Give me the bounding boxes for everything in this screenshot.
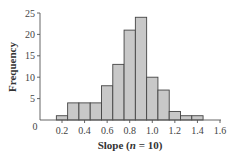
histogram-bars [56,17,203,120]
histogram-bar [147,77,158,120]
histogram-bar [158,90,169,120]
histogram-bar [79,103,90,120]
x-axis-title: Slope (n = 10) [98,139,163,152]
histogram-bar [68,103,79,120]
x-tick-label: 1.4 [191,125,204,136]
y-tick-label: 5 [30,93,35,104]
x-tick-label: 1.2 [169,125,182,136]
x-tick-label: 0.6 [101,125,114,136]
x-tick-label: 1.0 [146,125,159,136]
y-axis-title: Frequency [6,42,18,92]
y-tick-label: 15 [25,50,35,61]
histogram-bar [113,64,124,120]
histogram-bar [169,111,180,120]
x-tick-label: 0.8 [123,125,136,136]
histogram-bar [102,86,113,120]
histogram-bar [56,116,67,120]
histogram-bar [181,116,192,120]
x-axis-title-prefix: Slope ( [98,139,130,152]
y-tick-label: 20 [25,29,35,40]
y-ticks: 0510152025 [25,8,40,133]
histogram-bar [192,116,203,120]
x-tick-label: 0.4 [78,125,91,136]
x-axis-title-suffix: = 10) [136,139,163,152]
histogram-bar [135,17,146,120]
histogram-bar [124,30,135,120]
histogram-chart: 0510152025 0.20.40.60.81.01.21.41.6 Freq… [0,0,232,161]
histogram-bar [90,103,101,120]
x-ticks: 0.20.40.60.81.01.21.41.6 [56,120,227,136]
y-tick-label: 10 [25,72,35,83]
x-tick-label: 1.6 [214,125,227,136]
y-tick-label: 25 [25,8,35,19]
y-tick-label: 0 [33,121,38,132]
x-tick-label: 0.2 [56,125,69,136]
